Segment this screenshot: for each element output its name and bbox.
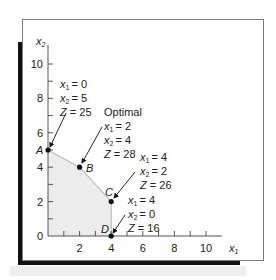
svg-text:x2= 2: x2= 2	[139, 165, 167, 178]
point-c	[109, 199, 114, 204]
y-tick-label: 10	[31, 58, 43, 70]
annotation-b-optimal: Optimal x1= 2 x2= 4 Z = 28	[103, 106, 142, 160]
point-c-label: C	[105, 186, 113, 198]
leader-arrow-b	[82, 127, 102, 163]
lp-graph: 2 4 6 8 10 x1 0 2 4 6 8 10 x2 A B C D	[0, 0, 276, 280]
y-axis-label: x2	[35, 35, 46, 48]
leader-arrow-a	[50, 113, 66, 147]
point-b	[77, 165, 82, 170]
annotation-d: x1= 4 x2= 0 Z = 16	[127, 194, 160, 234]
x-axis-label: x1	[228, 242, 239, 255]
figure: 2 4 6 8 10 x1 0 2 4 6 8 10 x2 A B C D	[0, 0, 276, 280]
x-tick-labels: 2 4 6 8 10	[77, 242, 213, 254]
point-a-label: A	[35, 144, 43, 156]
y-tick-label: 6	[37, 127, 43, 139]
svg-text:Z = 26: Z = 26	[139, 179, 172, 191]
x-tick-label: 6	[140, 242, 146, 254]
svg-text:Z = 25: Z = 25	[59, 106, 92, 118]
x-tick-label: 4	[108, 242, 114, 254]
annotation-c: x1= 4 x2= 2 Z = 26	[139, 151, 172, 191]
leader-arrow-d	[113, 215, 125, 233]
svg-text:x2= 4: x2= 4	[103, 134, 131, 147]
svg-text:x1= 2: x1= 2	[103, 120, 131, 133]
point-d-label: D	[101, 223, 109, 235]
y-tick-label: 0	[37, 230, 43, 242]
svg-text:Z = 28: Z = 28	[103, 148, 136, 160]
svg-text:x1= 0: x1= 0	[59, 78, 87, 91]
svg-text:x2= 0: x2= 0	[127, 208, 155, 221]
point-b-label: B	[86, 162, 93, 174]
x-tick-label: 8	[171, 242, 177, 254]
optimal-label: Optimal	[104, 106, 142, 118]
svg-text:x2= 5: x2= 5	[59, 92, 87, 105]
svg-text:x1= 4: x1= 4	[127, 194, 155, 207]
x-tick-label: 10	[200, 242, 212, 254]
y-tick-label: 8	[37, 92, 43, 104]
annotation-a: x1= 0 x2= 5 Z = 25	[59, 78, 92, 118]
point-a	[45, 147, 50, 152]
y-tick-label: 2	[37, 196, 43, 208]
svg-text:Z = 16: Z = 16	[127, 222, 160, 234]
x-tick-label: 2	[77, 242, 83, 254]
y-tick-label: 4	[37, 161, 43, 173]
svg-text:x1= 4: x1= 4	[139, 151, 167, 164]
point-d	[109, 233, 114, 238]
